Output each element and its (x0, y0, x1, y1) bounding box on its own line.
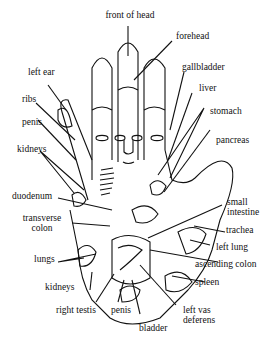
label-duodenum: duodenum (12, 191, 52, 201)
label-liver: liver (199, 83, 216, 93)
label-ribs: ribs (22, 94, 36, 104)
label-forehead: forehead (176, 31, 209, 41)
label-gallbladder: gallbladder (182, 62, 225, 72)
label-kidneys-upper: kidneys (17, 144, 47, 154)
label-front-of-head: front of head (100, 10, 160, 20)
label-right-testis: right testis (56, 305, 96, 315)
label-lungs: lungs (34, 254, 55, 264)
label-left-lung: left lung (216, 242, 248, 252)
label-small-intestine: smallintestine (227, 197, 259, 217)
label-pancreas: pancreas (216, 135, 249, 145)
hand-outline-drawing (0, 0, 268, 343)
hand-reflexology-diagram: front of head forehead gallbladder liver… (0, 0, 268, 343)
label-penis-upper: penis (22, 117, 42, 127)
label-trachea: trachea (226, 225, 253, 235)
label-kidneys-lower: kidneys (45, 282, 75, 292)
label-penis-lower: penis (111, 305, 131, 315)
label-stomach: stomach (210, 106, 242, 116)
label-bladder: bladder (139, 323, 168, 333)
label-left-vas-deferens: left vasdeferens (183, 305, 215, 325)
label-left-ear: left ear (28, 67, 55, 77)
label-spleen: spleen (195, 277, 219, 287)
label-transverse-colon: transversecolon (14, 213, 70, 233)
label-ascending-colon: ascending colon (195, 259, 256, 269)
